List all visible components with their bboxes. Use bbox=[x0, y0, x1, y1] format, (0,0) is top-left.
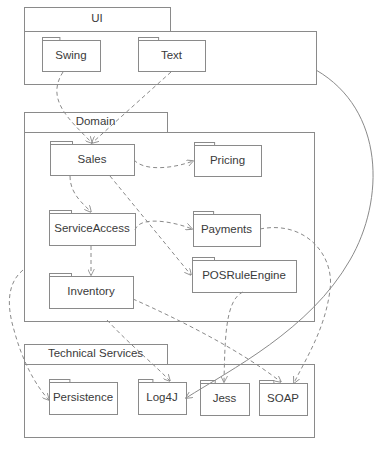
package-label-soap: SOAP bbox=[259, 393, 307, 405]
layer-title-technical-services: Technical Services bbox=[24, 348, 167, 360]
package-label-payments: Payments bbox=[193, 224, 260, 236]
package-label-pricing: Pricing bbox=[194, 155, 261, 167]
package-label-persistence: Persistence bbox=[49, 392, 117, 404]
package-label-inventory: Inventory bbox=[49, 286, 133, 298]
package-label-jess: Jess bbox=[200, 393, 249, 405]
package-label-text: Text bbox=[138, 50, 205, 62]
package-label-posruleengine: POSRuleEngine bbox=[192, 270, 296, 282]
layer-title-ui: UI bbox=[24, 13, 170, 25]
layer-title-domain: Domain bbox=[24, 116, 167, 128]
package-label-swing: Swing bbox=[42, 50, 100, 62]
package-label-log4j: Log4J bbox=[138, 392, 186, 404]
package-label-serviceaccess: ServiceAccess bbox=[49, 223, 135, 235]
package-label-sales: Sales bbox=[50, 154, 134, 166]
